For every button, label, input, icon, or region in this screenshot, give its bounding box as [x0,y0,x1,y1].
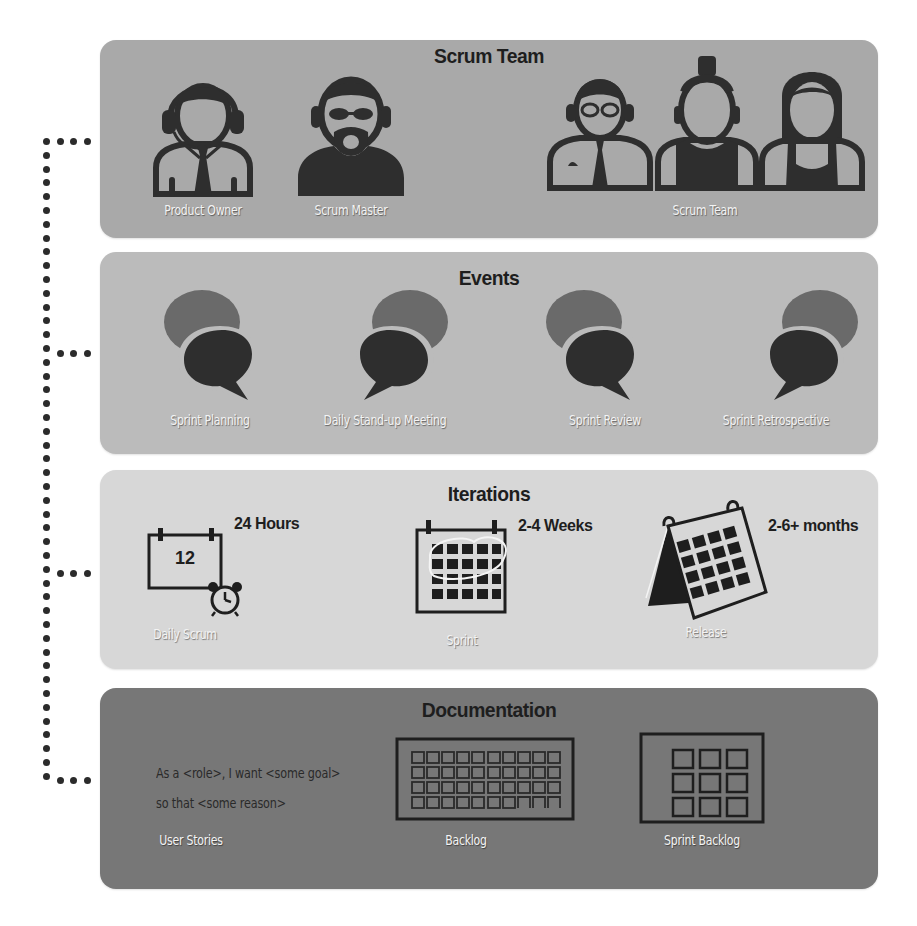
connector-dot [43,511,50,518]
panel-title: Documentation [131,698,847,722]
user-story-line-2: so that <some reason> [156,788,340,818]
connector-dot [43,497,50,504]
duration-release: 2-6+ months [768,517,858,535]
connector-dot [43,593,50,600]
scrum-team-panel: Scrum Team Product Owner Scrum Master [100,40,878,238]
iteration-label-daily-scrum: Daily Scrum [142,626,228,642]
duration-daily-scrum: 24 Hours [234,515,299,533]
connector-dot [43,718,50,725]
backlog-grid-icon [394,736,576,822]
connector-dot [43,607,50,614]
sprint-backlog-grid-icon [638,730,766,826]
desk-calendar-icon [642,494,772,624]
connector-dot [84,138,91,145]
connector-dot [43,235,50,242]
connector-dot [84,570,91,577]
connector-dot [43,580,50,587]
connector-dot [84,350,91,357]
connector-dot [43,248,50,255]
connector-dot [57,570,64,577]
connector-dot [43,773,50,780]
role-label-scrum-master: Scrum Master [300,202,401,218]
connector-dot [43,566,50,573]
connector-dot [43,455,50,462]
calendar-day-number: 12 [170,548,200,569]
connector-dot [43,193,50,200]
speech-bubbles-icon [344,284,464,404]
connector-dot [43,262,50,269]
connector-dot [43,345,50,352]
doc-label-backlog: Backlog [435,832,497,848]
connector-dot [43,649,50,656]
connector-dot [70,350,77,357]
connector-dot [43,317,50,324]
connector-dot [43,690,50,697]
connector-dot [43,304,50,311]
team-members-icon [546,54,866,194]
connector-dot [43,745,50,752]
connector-dot [84,777,91,784]
connector-dot [43,662,50,669]
iterations-panel: Iterations 12 24 Hours Daily Scrum [100,470,878,669]
connector-dot [43,428,50,435]
speech-bubbles-icon [148,284,268,404]
connector-dot [70,570,77,577]
doc-label-user-stories: User Stories [148,832,234,848]
role-label-product-owner: Product Owner [154,202,252,218]
connector-dot [43,373,50,380]
connector-dot [43,152,50,159]
connector-dot [43,221,50,228]
connector-dot [43,676,50,683]
connector-dot [43,166,50,173]
doc-label-sprint-backlog: Sprint Backlog [655,832,749,848]
iteration-label-sprint: Sprint [431,632,493,648]
connector-dot [57,777,64,784]
connector-dot [57,350,64,357]
connector-dot [43,290,50,297]
connector-dot [43,331,50,338]
connector-dot [43,414,50,421]
event-label-sprint-review: Sprint Review [554,412,655,428]
connector-dot [43,483,50,490]
user-story-line-1: As a <role>, I want <some goal> [156,758,340,788]
speech-bubbles-icon [530,284,650,404]
role-label-scrum-team: Scrum Team [654,202,755,218]
connector-dot [43,635,50,642]
event-label-daily-standup: Daily Stand-up Meeting [311,412,459,428]
connector-dot [43,704,50,711]
connector-dot [43,469,50,476]
connector-dot [43,524,50,531]
connector-dot [43,276,50,283]
connector-dot [57,138,64,145]
event-label-sprint-retrospective: Sprint Retrospective [714,412,839,428]
connector-dot [43,621,50,628]
iteration-label-release: Release [675,624,737,640]
events-panel: Events Sprint Planning Daily Stand-up Me… [100,252,878,454]
connector-dot [43,386,50,393]
calendar-month-icon [414,518,510,614]
connector-dot [43,138,50,145]
connector-dot [43,359,50,366]
headset-person-icon [150,62,256,200]
event-label-sprint-planning: Sprint Planning [155,412,264,428]
bearded-person-sunglasses-icon [296,62,406,200]
connector-dot [43,731,50,738]
connector-dot [70,138,77,145]
connector-dot [43,207,50,214]
connector-dot [43,538,50,545]
connector-dot [43,759,50,766]
connector-dot [43,442,50,449]
connector-dot [43,179,50,186]
documentation-panel: Documentation As a <role>, I want <some … [100,688,878,889]
speech-bubbles-icon [754,284,874,404]
calendar-alarm-icon: 12 [146,520,256,620]
connector-dot [43,552,50,559]
user-story-template: As a <role>, I want <some goal> so that … [156,758,340,818]
connector-dot [43,400,50,407]
duration-sprint: 2-4 Weeks [518,517,592,535]
connector-dot [70,777,77,784]
